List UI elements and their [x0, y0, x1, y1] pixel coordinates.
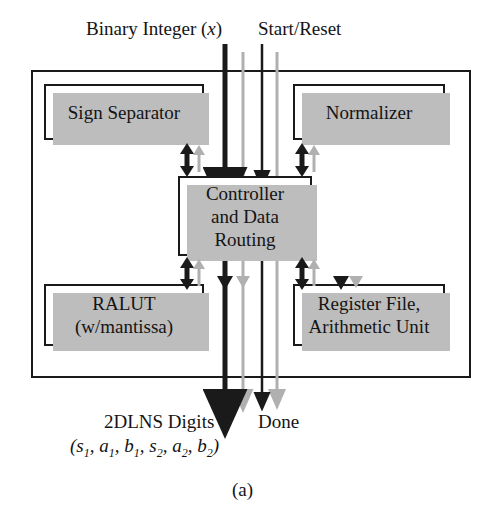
output-label-2dlns-digits: 2DLNS Digits — [104, 410, 214, 433]
output-label-digit-tuple: (s1, a1, b1, s2, a2, b2) — [70, 434, 219, 465]
block-register-file-arithmetic-unit[interactable]: Register File, Arithmetic Unit — [293, 284, 445, 346]
output-label-done: Done — [258, 410, 299, 433]
block-diagram-figure: Binary Integer (x) Start/Reset — [0, 0, 499, 520]
block-label-line2: (w/mantissa) — [75, 316, 173, 337]
binary-integer-paren: ) — [216, 18, 222, 39]
block-label: Controller and Data Routing — [206, 182, 284, 251]
block-label: RALUT (w/mantissa) — [75, 292, 173, 338]
binary-integer-text: Binary Integer ( — [86, 18, 207, 39]
binary-integer-variable: x — [207, 18, 215, 39]
block-label: Register File, Arithmetic Unit — [309, 292, 430, 338]
block-label-line2: and Data — [211, 206, 279, 227]
block-controller-and-data-routing[interactable]: Controller and Data Routing — [178, 176, 312, 256]
block-sign-separator[interactable]: Sign Separator — [44, 84, 204, 140]
block-label-line2: Arithmetic Unit — [309, 316, 430, 337]
input-label-start-reset: Start/Reset — [258, 18, 341, 40]
block-label-line1: RALUT — [92, 293, 155, 314]
subfigure-caption: (a) — [232, 478, 253, 501]
block-label: Sign Separator — [68, 101, 180, 124]
block-label-line1: Register File, — [318, 293, 420, 314]
block-normalizer[interactable]: Normalizer — [293, 84, 445, 140]
block-label: Normalizer — [326, 101, 413, 124]
block-label-line1: Controller — [206, 183, 284, 204]
block-label-line3: Routing — [214, 229, 275, 250]
input-label-binary-integer: Binary Integer (x) — [86, 18, 222, 40]
block-ralut[interactable]: RALUT (w/mantissa) — [44, 284, 204, 346]
